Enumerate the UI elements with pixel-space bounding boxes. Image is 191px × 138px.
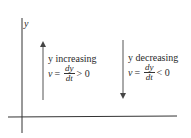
derivative-fraction: dy dt (64, 64, 75, 83)
velocity-symbol: v (128, 67, 132, 78)
denominator: dt (146, 73, 153, 82)
derivative-fraction: dy dt (144, 63, 155, 82)
denominator: dt (66, 74, 73, 83)
equals-sign: = (54, 68, 60, 79)
y-axis-label: y (24, 19, 28, 29)
relation: > 0 (77, 68, 90, 79)
x-axis (8, 116, 177, 117)
velocity-symbol: v (48, 68, 52, 79)
relation: < 0 (157, 67, 170, 78)
increasing-equation: v = dy dt > 0 (48, 64, 90, 83)
equals-sign: = (134, 67, 140, 78)
decreasing-equation: v = dy dt < 0 (128, 63, 170, 82)
